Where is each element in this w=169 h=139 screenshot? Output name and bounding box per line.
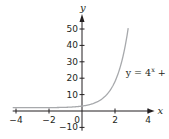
y-tick-label: 10 — [67, 90, 79, 100]
equation-label: y = 4x + 2 — [125, 66, 169, 78]
y-tick-label: 50 — [67, 24, 79, 34]
y-axis-label: y — [79, 2, 86, 13]
equation-main: y = 4 — [125, 67, 151, 78]
x-axis-arrow — [148, 109, 155, 114]
x-axis-label: x — [158, 105, 164, 116]
y-tick-label: −10 — [59, 122, 78, 132]
x-tick-label: 4 — [145, 115, 151, 125]
chart: x y −4−2024 −101020304050 y = 4x + 2 — [0, 0, 169, 139]
y-axis-arrow — [80, 14, 85, 22]
equation-tail: + 2 — [155, 67, 169, 78]
y-ticks: −101020304050 — [59, 24, 85, 132]
x-tick-label: 2 — [112, 115, 118, 125]
y-tick-label: 30 — [67, 57, 79, 67]
y-tick-label: 20 — [67, 73, 79, 83]
x-tick-label: −2 — [42, 115, 55, 125]
y-tick-label: 40 — [67, 40, 79, 50]
x-axis: x — [13, 105, 164, 116]
x-tick-label: −4 — [9, 115, 23, 125]
